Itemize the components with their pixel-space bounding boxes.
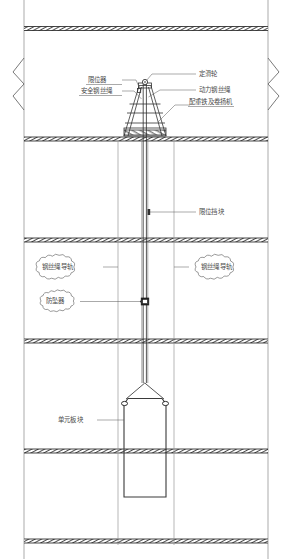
drawing-svg: 限位器 安全钢丝绳 定滑轮 动力钢丝绳 配重铁及卷扬机: [0, 0, 292, 559]
label-limit-device: 限位器: [86, 75, 122, 85]
panel-lifting-eye-right: [163, 401, 169, 405]
svg-text:钢丝绳导轨: 钢丝绳导轨: [42, 262, 74, 271]
label-fixed-pulley: 定滑轮: [199, 69, 218, 78]
svg-text:防坠器: 防坠器: [46, 296, 65, 305]
svg-text:单元板块: 单元板块: [58, 415, 84, 424]
floor-slab: [24, 449, 268, 453]
leader-lines: [80, 74, 196, 420]
panel-lifting-eye-left: [122, 401, 128, 405]
label-counterweight-winch: 配重铁及卷扬机: [188, 97, 234, 107]
floor-slab: [24, 27, 268, 31]
label-fall-arrester: 防坠器: [46, 296, 65, 305]
limit-block-mark: [148, 209, 151, 215]
lifting-sling: [126, 383, 164, 399]
svg-text:限位器: 限位器: [88, 75, 107, 84]
label-limit-block: 限位挡块: [199, 207, 225, 216]
fall-arrester-device: [141, 298, 149, 305]
break-symbol-left: [13, 58, 24, 110]
svg-text:定滑轮: 定滑轮: [199, 69, 218, 78]
wire-ropes: [142, 84, 148, 383]
break-symbol-right: [268, 58, 279, 110]
label-unit-panel: 单元板块: [58, 415, 84, 424]
svg-text:安全钢丝绳: 安全钢丝绳: [81, 86, 113, 95]
label-safety-wire-rope: 安全钢丝绳: [79, 86, 122, 96]
svg-text:钢丝绳导轨: 钢丝绳导轨: [201, 262, 233, 271]
unit-panel: [122, 399, 169, 498]
hoist-support-frame: [124, 79, 166, 136]
counterweight-winch-base: [124, 128, 166, 136]
svg-text:配重铁及卷扬机: 配重铁及卷扬机: [189, 97, 233, 106]
label-wire-rope-guide-right: 钢丝绳导轨: [201, 262, 233, 271]
label-wire-rope-guide-left: 钢丝绳导轨: [42, 262, 74, 271]
label-power-wire-rope: 动力钢丝绳: [199, 85, 231, 94]
hoisting-diagram-canvas: 限位器 安全钢丝绳 定滑轮 动力钢丝绳 配重铁及卷扬机: [0, 0, 292, 559]
svg-text:动力钢丝绳: 动力钢丝绳: [199, 85, 231, 94]
floor-slab: [24, 539, 268, 543]
svg-text:限位挡块: 限位挡块: [199, 207, 225, 216]
annotation-labels: 限位器 安全钢丝绳 定滑轮 动力钢丝绳 配重铁及卷扬机: [42, 69, 234, 424]
